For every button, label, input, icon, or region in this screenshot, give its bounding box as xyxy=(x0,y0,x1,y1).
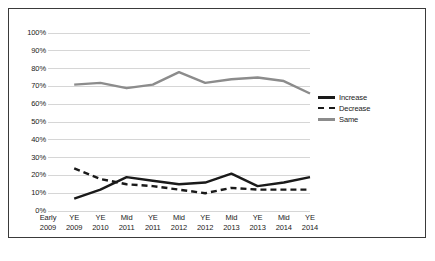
y-axis-tick-label: 40% xyxy=(16,136,46,144)
y-axis-tick-label: 100% xyxy=(16,29,46,37)
y-axis-tick-label: 10% xyxy=(16,189,46,197)
legend-item-decrease[interactable]: Decrease xyxy=(318,103,418,113)
y-axis-tick-label: 50% xyxy=(16,118,46,126)
series-line-increase xyxy=(74,174,310,199)
solid-black-line-icon xyxy=(318,92,335,102)
series-line-same xyxy=(74,72,310,93)
y-axis-tick-label: 60% xyxy=(16,100,46,108)
y-axis-tick-label: 20% xyxy=(16,171,46,179)
y-axis-tick-label: 70% xyxy=(16,82,46,90)
dashed-black-line-icon xyxy=(318,103,335,113)
legend-item-label: Increase xyxy=(339,93,367,102)
y-axis-tick-label: 80% xyxy=(16,65,46,73)
y-axis-tick-label: 90% xyxy=(16,47,46,55)
legend-item-label: Same xyxy=(339,115,358,124)
series-lines xyxy=(74,72,310,198)
solid-gray-line-icon xyxy=(318,114,335,124)
x-axis-tick-label: YE2014 xyxy=(293,213,327,232)
y-axis-tick-label: 30% xyxy=(16,154,46,162)
legend-item-increase[interactable]: Increase xyxy=(318,92,418,102)
series-line-decrease xyxy=(74,168,310,193)
x-axis-labels: Early2009YE2009YE2010Mid2011YE2011Mid201… xyxy=(48,213,310,241)
legend-item-same[interactable]: Same xyxy=(318,114,418,124)
x-axis-tick-line2: 2014 xyxy=(293,223,327,233)
legend-item-label: Decrease xyxy=(339,104,370,113)
chart-legend: IncreaseDecreaseSame xyxy=(318,92,418,125)
x-axis-tick-line1: YE xyxy=(293,213,327,223)
